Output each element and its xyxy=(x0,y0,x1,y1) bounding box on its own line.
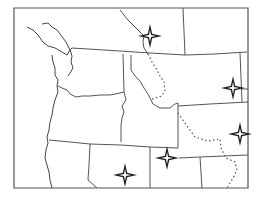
puget-sound xyxy=(68,50,73,76)
map-frame xyxy=(14,8,248,188)
outline-map: Northwestern United States outline map xyxy=(0,0,262,206)
vancouver-island xyxy=(42,23,70,50)
or-south-border xyxy=(49,140,178,148)
wa-id-border xyxy=(123,54,124,92)
wy-south-border xyxy=(179,155,248,158)
ca-nv-border xyxy=(88,144,97,188)
mt-dakota-border xyxy=(240,53,242,102)
marker-m4 xyxy=(155,146,179,170)
map-canvas xyxy=(0,0,262,206)
dotted-route xyxy=(148,54,237,188)
northern-diagonal xyxy=(120,10,148,54)
pacific-coast-wa-or xyxy=(45,55,58,188)
id-mt-border xyxy=(131,55,178,108)
montana-interior-line xyxy=(183,8,185,55)
or-id-border xyxy=(121,92,126,142)
ut-co-border xyxy=(200,157,202,188)
northern-border xyxy=(72,48,247,55)
mt-wy-border xyxy=(178,102,248,106)
wa-or-border xyxy=(58,86,124,97)
marker-m1 xyxy=(138,24,162,48)
marker-m5 xyxy=(113,163,137,187)
